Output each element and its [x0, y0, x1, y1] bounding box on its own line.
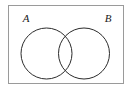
- venn-diagram-canvas: A B: [0, 0, 133, 91]
- label-set-b: B: [105, 12, 112, 24]
- venn-diagram-figure: A B: [0, 0, 133, 91]
- label-set-a: A: [22, 12, 30, 24]
